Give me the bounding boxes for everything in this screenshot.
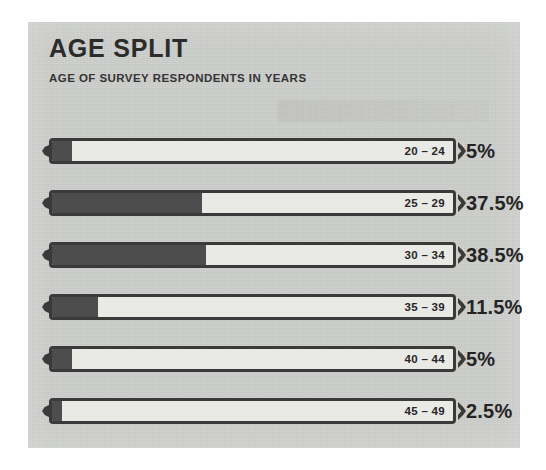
bar-range-label: 30 – 34 — [405, 245, 445, 265]
chevron-right-icon — [458, 350, 466, 368]
bar-fill — [52, 349, 72, 369]
table-row: 45 – 49 2.5% — [42, 398, 510, 424]
table-row: 30 – 34 38.5% — [42, 242, 510, 268]
age-split-infographic-panel: AGE SPLIT AGE OF SURVEY RESPONDENTS IN Y… — [28, 22, 520, 448]
chevron-right-icon — [458, 298, 466, 316]
bar-track: 40 – 44 — [49, 346, 456, 372]
bar-fill — [52, 401, 62, 421]
table-row: 20 – 24 5% — [42, 138, 510, 164]
bar-value-label: 5% — [466, 138, 546, 164]
bar-track: 45 – 49 — [49, 398, 456, 424]
bar-value-label: 5% — [466, 346, 546, 372]
table-row: 40 – 44 5% — [42, 346, 510, 372]
bar-range-label: 40 – 44 — [405, 349, 445, 369]
bar-chart: 20 – 24 5% 25 – 29 37.5% 30 – 34 38.5% — [42, 138, 510, 450]
table-row: 25 – 29 37.5% — [42, 190, 510, 216]
chevron-right-icon — [458, 402, 466, 420]
page-title: AGE SPLIT — [49, 34, 188, 63]
bar-range-label: 20 – 24 — [405, 141, 445, 161]
bar-value-label: 11.5% — [466, 294, 546, 320]
bar-fill — [52, 245, 206, 265]
bar-value-label: 38.5% — [466, 242, 546, 268]
bar-range-label: 45 – 49 — [405, 401, 445, 421]
bar-track: 30 – 34 — [49, 242, 456, 268]
bar-value-label: 37.5% — [466, 190, 546, 216]
bar-fill — [52, 193, 202, 213]
bar-fill — [52, 141, 72, 161]
bar-value-label: 2.5% — [466, 398, 546, 424]
bar-fill — [52, 297, 98, 317]
bar-track: 25 – 29 — [49, 190, 456, 216]
table-row: 35 – 39 11.5% — [42, 294, 510, 320]
bar-range-label: 35 – 39 — [405, 297, 445, 317]
chevron-right-icon — [458, 142, 466, 160]
bar-track: 35 – 39 — [49, 294, 456, 320]
chevron-right-icon — [458, 246, 466, 264]
print-bleedthrough-artifact — [278, 100, 488, 122]
page-subtitle: AGE OF SURVEY RESPONDENTS IN YEARS — [49, 72, 307, 84]
bar-track: 20 – 24 — [49, 138, 456, 164]
bar-range-label: 25 – 29 — [405, 193, 445, 213]
chevron-right-icon — [458, 194, 466, 212]
